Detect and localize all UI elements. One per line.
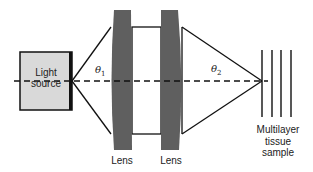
light-source-label-line1: Light	[24, 67, 68, 78]
theta1-subscript: 1	[101, 70, 105, 78]
optics-diagram: Light source θ1 θ2 Lens Lens Multilayer …	[0, 0, 313, 172]
theta2-label: θ2	[211, 63, 222, 77]
sample-label-line3: sample	[248, 147, 308, 159]
lens-1	[112, 10, 133, 150]
light-source-label: Light source	[24, 67, 68, 89]
theta2-subscript: 2	[217, 69, 221, 77]
tissue-layers	[262, 50, 291, 117]
theta1-label: θ1	[95, 64, 106, 78]
lens-1-label: Lens	[106, 155, 138, 166]
sample-label: Multilayer tissue sample	[248, 124, 308, 159]
sample-label-line1: Multilayer	[248, 124, 308, 136]
sample-label-line2: tissue	[248, 136, 308, 148]
lens-2	[161, 10, 181, 150]
lens-2-label: Lens	[155, 155, 187, 166]
light-source-label-line2: source	[24, 78, 68, 89]
